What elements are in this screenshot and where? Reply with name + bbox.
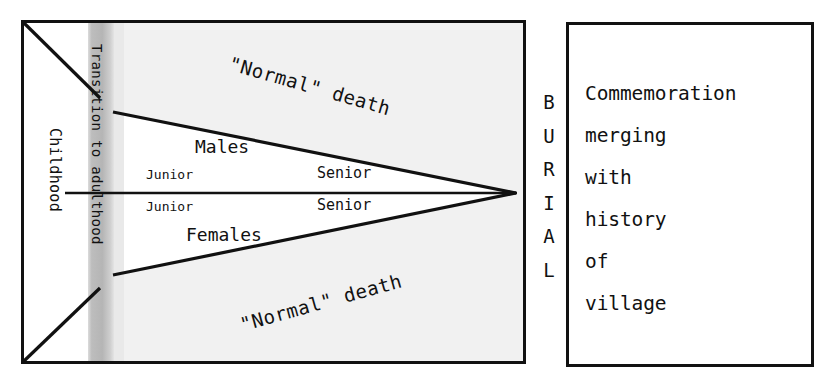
commemoration-line: merging xyxy=(585,115,810,157)
females-junior-label: Junior xyxy=(146,200,193,213)
commemoration-line: of xyxy=(585,241,810,283)
burial-letter: B xyxy=(543,86,554,120)
commemoration-line: with xyxy=(585,157,810,199)
males-senior-label: Senior xyxy=(317,166,371,181)
burial-label: B U R I A L xyxy=(536,86,562,287)
burial-letter: R xyxy=(543,153,554,187)
males-label: Males xyxy=(195,138,249,156)
commemoration-line: village xyxy=(585,283,810,325)
commemoration-line: history xyxy=(585,199,810,241)
burial-letter: I xyxy=(543,187,554,221)
transition-to-adulthood-label: Transition to adulthood xyxy=(90,44,104,245)
burial-letter: A xyxy=(543,220,554,254)
diagram-canvas: Childhood Transition to adulthood "Norma… xyxy=(0,0,827,387)
males-junior-label: Junior xyxy=(146,168,193,181)
females-senior-label: Senior xyxy=(317,198,371,213)
burial-letter: L xyxy=(543,254,554,288)
childhood-label: Childhood xyxy=(47,128,62,212)
commemoration-text: Commemoration merging with history of vi… xyxy=(585,73,810,325)
burial-letter: U xyxy=(543,120,554,154)
females-label: Females xyxy=(186,226,262,244)
commemoration-line: Commemoration xyxy=(585,73,810,115)
